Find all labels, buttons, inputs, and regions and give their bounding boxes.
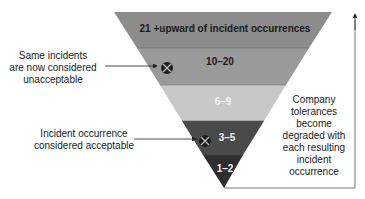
annotation-acceptable: Incident occurrence considered acceptabl… — [30, 128, 138, 152]
band-label-21-plus: 21 +upward of incident occurrences — [130, 23, 320, 34]
band-label-3-5: 3–5 — [202, 132, 252, 143]
band-label-1-2: 1–2 — [205, 163, 245, 174]
band-label-10-20: 10–20 — [190, 56, 250, 67]
annotation-unacceptable: Same incidents are now considered unacce… — [3, 50, 103, 86]
band-label-6-9: 6–9 — [193, 96, 253, 107]
x-circle-marker-unacceptable — [161, 62, 173, 74]
annotation-tolerance: Company tolerances become degraded with … — [278, 94, 350, 178]
